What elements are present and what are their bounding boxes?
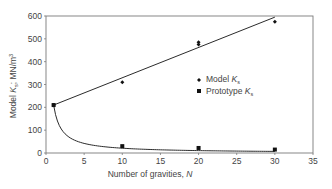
prototype-fit-curve xyxy=(54,105,275,151)
model-point xyxy=(273,20,277,24)
x-tick-label: 10 xyxy=(118,156,128,166)
x-tick-label: 30 xyxy=(270,156,280,166)
y-tick-label: 600 xyxy=(28,11,42,21)
y-tick-label: 100 xyxy=(28,125,42,135)
fit-lines xyxy=(54,17,275,151)
y-tick-label: 400 xyxy=(28,57,42,67)
x-tick-label: 20 xyxy=(194,156,204,166)
square-marker-icon xyxy=(197,89,201,93)
x-axis-label: Number of gravities, N xyxy=(108,169,193,179)
model-point xyxy=(197,40,201,44)
x-tick-label: 35 xyxy=(308,156,318,166)
legend-label-model: Model Ks xyxy=(206,74,240,85)
x-tick-label: 0 xyxy=(44,156,49,166)
x-tick-label: 15 xyxy=(156,156,166,166)
legend-label-prototype: Prototype Ks xyxy=(206,86,253,97)
y-tick-label: 300 xyxy=(28,80,42,90)
prototype-point xyxy=(52,103,56,107)
model-point xyxy=(120,80,124,84)
prototype-point xyxy=(120,144,124,148)
plot-frame xyxy=(46,16,313,153)
chart-container: 010020030040050060005101520253035 Model … xyxy=(0,0,332,189)
prototype-point xyxy=(273,148,277,152)
y-tick-label: 500 xyxy=(28,34,42,44)
diamond-marker-icon xyxy=(197,78,201,82)
y-tick-label: 200 xyxy=(28,102,42,112)
y-tick-label: 0 xyxy=(37,148,42,158)
x-tick-label: 25 xyxy=(232,156,242,166)
axes: 010020030040050060005101520253035 xyxy=(28,11,318,166)
chart-svg: 010020030040050060005101520253035 Model … xyxy=(0,0,332,189)
legend-item-model: Model Ks xyxy=(197,74,240,85)
legend-item-prototype: Prototype Ks xyxy=(197,86,253,97)
legend: Model Ks Prototype Ks xyxy=(197,74,253,97)
prototype-point xyxy=(197,146,201,150)
x-tick-label: 5 xyxy=(82,156,87,166)
y-axis-label: Model Ks; MN/m3 xyxy=(8,54,19,118)
